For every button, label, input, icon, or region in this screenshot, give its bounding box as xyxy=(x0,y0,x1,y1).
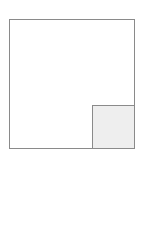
inner-shaded-square xyxy=(92,105,134,148)
